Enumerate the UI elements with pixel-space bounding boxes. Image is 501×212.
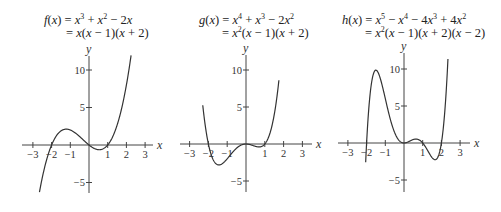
x-tick-label-h: −1: [380, 147, 391, 158]
y-tick-label-h: 5: [395, 101, 400, 112]
y-tick-label-f: −5: [74, 177, 85, 188]
x-tick-label-g: −3: [184, 148, 195, 159]
y-tick-label-g: 10: [232, 65, 243, 76]
curve-h: [366, 59, 448, 162]
x-tick-label-f: 2: [124, 149, 129, 160]
x-tick-label-g: 2: [281, 148, 286, 159]
y-tick-label-f: 5: [80, 102, 85, 113]
plots-canvas: xy−3−2−1123105−5xy−3−2−1123105−5xy−3−2−1…: [0, 0, 501, 212]
curve-g: [203, 80, 279, 165]
x-tick-label-f: −3: [27, 149, 38, 160]
y-axis-label-g: y: [242, 41, 249, 55]
curve-f: [39, 55, 131, 192]
x-tick-label-h: 3: [457, 147, 462, 158]
y-axis-label-f: y: [85, 42, 92, 56]
x-tick-label-h: 1: [420, 147, 425, 158]
y-tick-label-f: 10: [75, 65, 86, 76]
x-tick-label-f: −1: [65, 149, 76, 160]
y-tick-label-h: −5: [389, 175, 400, 186]
x-tick-label-g: 3: [300, 148, 305, 159]
y-tick-label-g: 5: [237, 102, 242, 113]
x-tick-label-f: 3: [142, 149, 147, 160]
x-axis-label-g: x: [315, 137, 322, 151]
x-tick-label-h: −3: [342, 147, 353, 158]
y-tick-label-g: −5: [231, 176, 242, 187]
x-axis-label-h: x: [473, 136, 480, 150]
y-axis-label-h: y: [400, 39, 407, 53]
x-tick-label-g: 1: [262, 148, 267, 159]
x-axis-label-f: x: [156, 138, 163, 152]
y-tick-label-h: 10: [390, 64, 401, 75]
x-tick-label-f: 1: [105, 149, 110, 160]
